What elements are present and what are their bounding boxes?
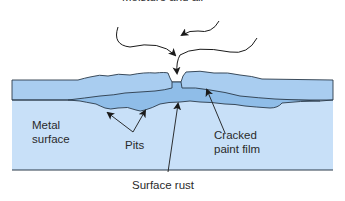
moisture-arrow-1 [117,27,176,55]
moisture-arrow-2 [182,21,219,35]
moisture-arrow-3 [177,38,257,73]
cracked-paint-film-label: Cracked paint film [214,128,260,156]
metal-surface-label: Metal surface [32,118,70,146]
surface-rust-label: Surface rust [132,178,194,192]
pits-label: Pits [125,138,144,152]
corrosion-diagram [0,0,345,201]
